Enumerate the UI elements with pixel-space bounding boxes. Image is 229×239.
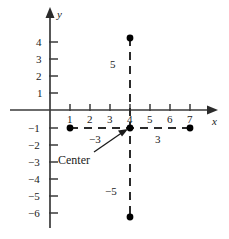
y-axis-label: y: [57, 9, 62, 20]
x-tick-label-6: 6: [167, 114, 173, 125]
y-tick-label-neg5: −5: [28, 191, 40, 202]
center-arrow-head: [118, 129, 128, 137]
x-tick-label-1: 1: [67, 114, 73, 125]
point-top-vertex: [127, 35, 134, 42]
y-tick-label-neg6: −6: [28, 208, 40, 219]
x-tick-label-5: 5: [147, 114, 153, 125]
y-tick-label-4: 4: [36, 37, 42, 48]
point-right-vertex: [187, 125, 194, 132]
point-left-vertex: [67, 125, 74, 132]
semi-minor-upper-label: 5: [110, 59, 116, 70]
point-center: [127, 125, 134, 132]
x-tick-label-2: 2: [87, 114, 93, 125]
y-axis-arrowhead: [46, 7, 55, 18]
semi-minor-lower-label: −5: [105, 186, 117, 197]
y-tick-label-2: 2: [36, 71, 42, 82]
x-tick-label-4: 4: [127, 114, 133, 125]
figure-canvas: [0, 0, 229, 239]
y-tick-label-neg1: −1: [28, 123, 40, 134]
x-axis-label: x: [212, 116, 217, 127]
point-bottom-vertex: [127, 214, 134, 221]
coordinate-plane-figure: 1 2 3 4 5 6 7 4 3 2 1 −1 −2 −3 −4 −5 −6 …: [0, 0, 229, 239]
y-tick-label-1: 1: [37, 88, 43, 99]
center-annotation-label: Center: [58, 154, 90, 166]
x-tick-label-7: 7: [187, 114, 193, 125]
x-tick-label-3: 3: [107, 114, 113, 125]
y-tick-label-3: 3: [36, 54, 42, 65]
y-tick-label-neg3: −3: [28, 157, 40, 168]
semi-major-left-label: −3: [89, 134, 101, 145]
y-tick-label-neg2: −2: [28, 140, 40, 151]
semi-major-right-label: 3: [155, 134, 161, 145]
x-axis-arrowhead: [207, 106, 218, 115]
y-tick-label-neg4: −4: [28, 174, 40, 185]
